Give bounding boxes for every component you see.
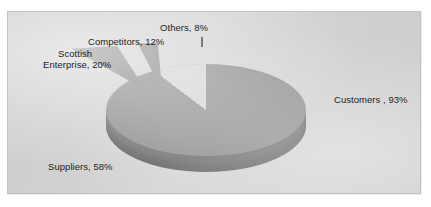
others-leader-line-icon: [201, 37, 203, 47]
slice-label-suppliers: Suppliers, 58%: [48, 161, 113, 172]
plot-area: Others, 8% Competitors, 12% Scottish Ent…: [7, 11, 421, 194]
slice-label-others: Others, 8%: [160, 22, 208, 33]
slice-label-scottish-enterprise: Scottish Enterprise, 20%: [58, 48, 111, 70]
slice-label-scottish-enterprise-line1: Scottish: [58, 48, 92, 59]
pie-chart-figure: Others, 8% Competitors, 12% Scottish Ent…: [0, 0, 431, 207]
slice-label-competitors: Competitors, 12%: [88, 36, 164, 47]
slice-label-customers: Customers , 93%: [334, 94, 408, 105]
slice-label-scottish-enterprise-line2: Enterprise, 20%: [43, 59, 111, 70]
